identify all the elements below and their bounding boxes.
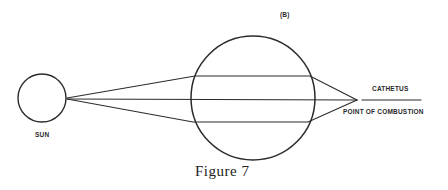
center-ray — [67, 99, 357, 100]
sun-label: SUN — [35, 131, 49, 138]
panel-label: (B) — [280, 11, 290, 18]
sun-circle — [18, 74, 66, 122]
figure-caption: Figure 7 — [195, 163, 249, 180]
lens-circle — [191, 36, 315, 160]
diagram-canvas — [0, 0, 448, 190]
optics-figure: (B) SUN CATHETUS POINT OF COMBUSTION Fig… — [0, 0, 448, 190]
point-of-combustion-label: POINT OF COMBUSTION — [343, 108, 424, 115]
cathetus-label: CATHETUS — [372, 85, 409, 92]
